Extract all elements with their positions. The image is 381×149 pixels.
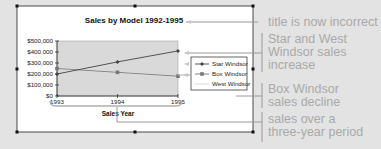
x-axis-title[interactable]: Sales Year — [102, 110, 135, 117]
y-tick-label: $400,000 — [27, 48, 53, 55]
callout-line: increase — [268, 59, 347, 72]
legend-label: Box Windsor — [212, 70, 247, 77]
legend-label: West Windsor — [212, 80, 250, 87]
callout-three-year-period: sales over a three-year period — [268, 113, 363, 139]
callout-sales-increase: Star and West Windsor sales increase — [268, 33, 347, 72]
x-tick-label: 1993 — [50, 98, 64, 105]
chart-figure: Sales by Model 1992-1995 $500,000$400,00… — [0, 0, 381, 149]
callout-line: title is now incorrect — [268, 16, 378, 29]
callout-line: sales decline — [268, 96, 340, 109]
callout-line: three-year period — [268, 126, 363, 139]
x-tick-label: 1995 — [171, 98, 185, 105]
y-tick-label: $500,000 — [27, 37, 53, 44]
data-point-marker[interactable] — [55, 67, 59, 71]
plot-area[interactable] — [57, 41, 178, 96]
y-tick-label: $100,000 — [27, 81, 53, 88]
chart-title[interactable]: Sales by Model 1992-1995 — [85, 16, 184, 25]
legend-label: Star Windsor — [212, 60, 248, 67]
y-tick-label: $300,000 — [27, 59, 53, 66]
x-tick-label: 1994 — [111, 98, 125, 105]
data-point-marker[interactable] — [116, 71, 120, 75]
y-tick-label: $200,000 — [27, 70, 53, 77]
callout-title-incorrect: title is now incorrect — [268, 16, 378, 29]
callout-box-decline: Box Windsor sales decline — [268, 83, 340, 109]
